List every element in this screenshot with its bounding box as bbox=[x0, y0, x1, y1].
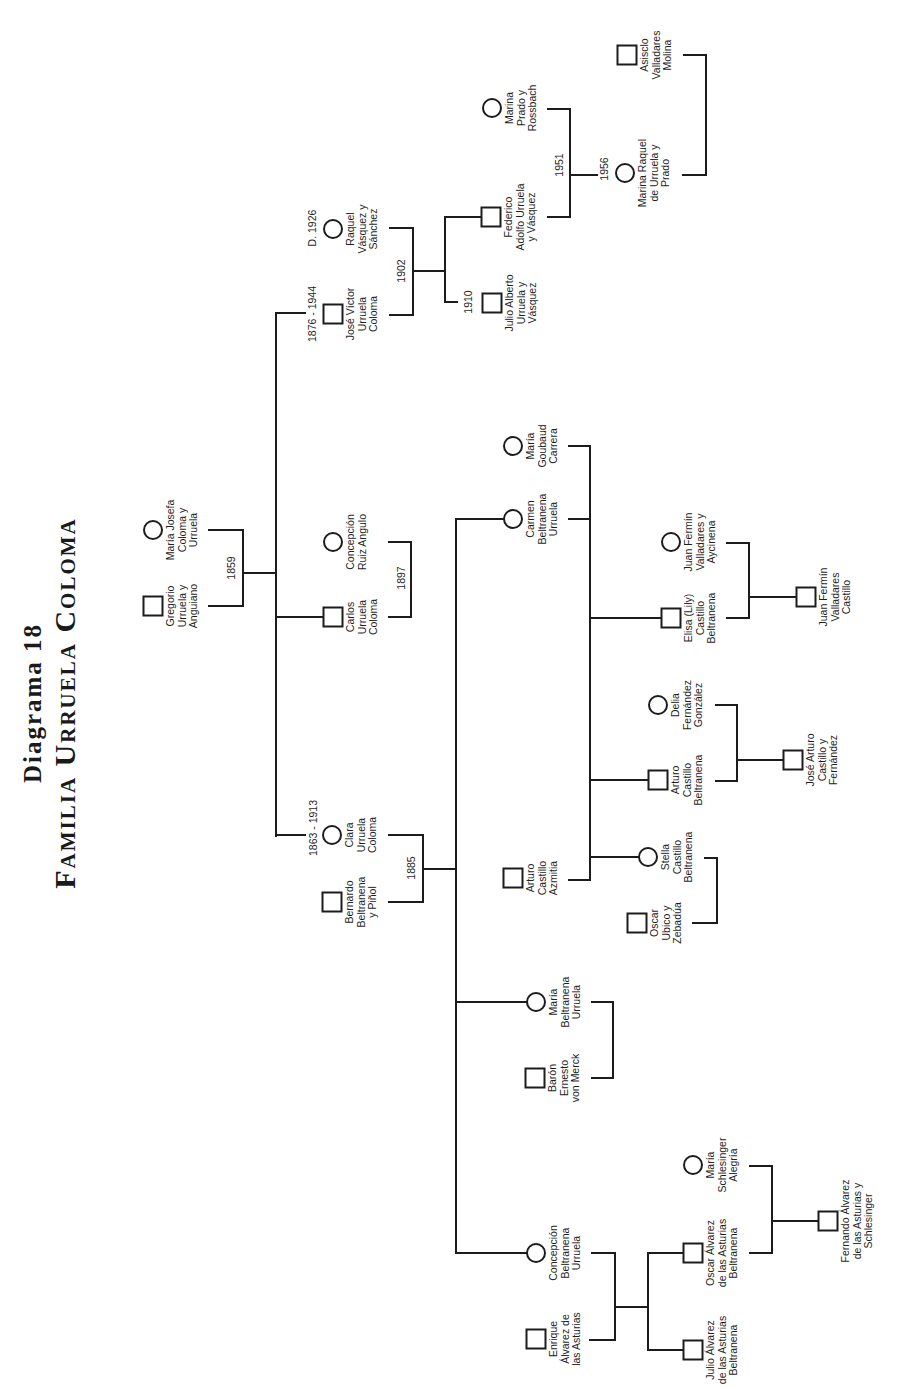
square-marker-icon bbox=[684, 1341, 703, 1360]
marriage-year: 1859 bbox=[226, 513, 237, 623]
person-label: Fernando Álvarez de las Asturias y Schle… bbox=[840, 1166, 875, 1276]
circle-marker-icon bbox=[324, 220, 342, 238]
square-marker-icon bbox=[144, 597, 163, 616]
person-label: Marina Prado y Rossbach bbox=[504, 53, 539, 163]
square-marker-icon bbox=[628, 914, 647, 933]
square-marker-icon bbox=[324, 305, 343, 324]
circle-marker-icon bbox=[527, 1244, 545, 1262]
marriage-year: 1902 bbox=[396, 216, 407, 326]
circle-marker-icon bbox=[616, 164, 634, 182]
person-label: María Josefa Coloma y Urruela bbox=[165, 475, 200, 585]
circle-marker-icon bbox=[483, 99, 501, 117]
circle-marker-icon bbox=[662, 533, 680, 551]
square-marker-icon bbox=[797, 588, 816, 607]
person-label: Arturo Castillo Azmitia bbox=[525, 823, 560, 933]
marriage-bracket-ubico-castillo bbox=[693, 858, 717, 923]
person-dates: 1910 bbox=[463, 247, 474, 357]
square-marker-icon bbox=[684, 1244, 703, 1263]
square-marker-icon bbox=[527, 1330, 546, 1349]
person-label: Barón Ernesto von Merck bbox=[547, 1023, 582, 1133]
person-label: Oscar Álvarez de las Asturias Beltranena bbox=[705, 1198, 740, 1308]
circle-marker-icon bbox=[504, 437, 522, 455]
marriage-bracket-valladares-castillo bbox=[727, 543, 797, 618]
person-dates: 1956 bbox=[599, 114, 610, 224]
person-label: Raquel Vásquez y Sánchez bbox=[345, 174, 380, 284]
person-label: Juan Fermín Valladares Castillo bbox=[818, 542, 853, 652]
circle-marker-icon bbox=[527, 993, 545, 1011]
square-marker-icon bbox=[483, 294, 502, 313]
person-label: Concepción Ruiz Angulo bbox=[345, 487, 368, 597]
circle-marker-icon bbox=[323, 826, 341, 844]
marriage-year: 1951 bbox=[554, 110, 565, 220]
square-marker-icon bbox=[819, 1212, 838, 1231]
marriage-bracket-castillo-fernandez bbox=[716, 705, 784, 781]
person-label: Asisclo Valladares Molina bbox=[639, 0, 674, 110]
person-label: Oscar Ubico y Zebadúa bbox=[649, 868, 684, 978]
marriage-bracket-alvarez-beltranena bbox=[590, 1253, 648, 1340]
marriage-bracket-castillo-azmitia bbox=[569, 446, 590, 880]
marriage-bracket-alvarez-schlesinger bbox=[750, 1166, 818, 1253]
square-marker-icon bbox=[649, 771, 668, 790]
square-marker-icon bbox=[504, 869, 523, 888]
children-trunk-gen2 bbox=[276, 313, 323, 836]
square-marker-icon bbox=[784, 751, 803, 770]
square-marker-icon bbox=[482, 208, 501, 227]
person-label: Bernardo Beltranena y Piñol bbox=[344, 847, 379, 957]
person-label: Julio Alberto Urruela y Vásquez bbox=[504, 248, 539, 358]
person-label: Enrique Álvarez de las Asturias bbox=[548, 1284, 583, 1388]
marriage-bracket-von-merck bbox=[592, 1002, 613, 1078]
marriage-bracket-valladares-urruela bbox=[683, 55, 706, 175]
square-marker-icon bbox=[662, 609, 681, 628]
children-bar-alvarez bbox=[648, 1253, 683, 1350]
person-label: Julio Álvarez de las Asturias Beltranena bbox=[705, 1295, 740, 1388]
square-marker-icon bbox=[323, 893, 342, 912]
circle-marker-icon bbox=[504, 510, 522, 528]
person-label: Marina Raquel de Urruela y Prado bbox=[637, 118, 672, 228]
person-dates: 1863 - 1913 bbox=[308, 773, 319, 883]
square-marker-icon bbox=[324, 608, 343, 627]
marriage-year: 1897 bbox=[396, 523, 407, 633]
circle-marker-icon bbox=[144, 521, 162, 539]
circle-marker-icon bbox=[324, 533, 342, 551]
children-bar-castillo bbox=[590, 618, 661, 857]
circle-marker-icon bbox=[649, 696, 667, 714]
square-marker-icon bbox=[526, 1069, 545, 1088]
person-label: José Arturo Castillo y Fernández bbox=[805, 705, 840, 815]
circle-marker-icon bbox=[684, 1156, 702, 1174]
person-label: Carmen Beltranena Urruela bbox=[525, 464, 560, 574]
marriage-bracket-1885 bbox=[389, 835, 456, 902]
circle-marker-icon bbox=[639, 848, 657, 866]
person-dates: D. 1926 bbox=[307, 173, 318, 283]
marriage-bracket-1859 bbox=[209, 530, 276, 606]
marriage-year: 1885 bbox=[406, 813, 417, 923]
square-marker-icon bbox=[618, 46, 637, 65]
